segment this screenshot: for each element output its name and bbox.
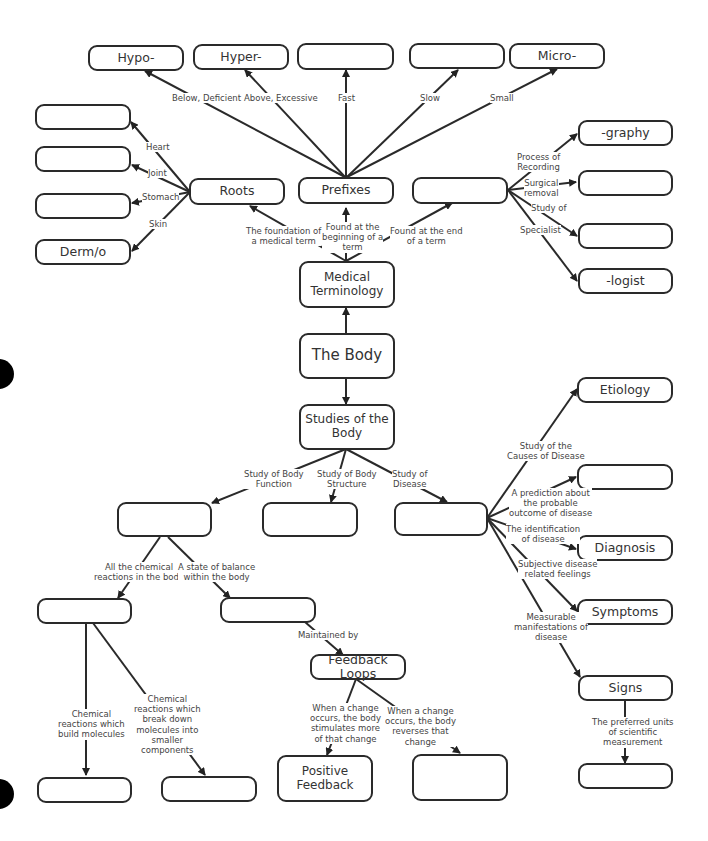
node-homeostasis-blank[interactable] [220, 597, 316, 623]
edge-label-below: Below, Deficient [172, 93, 241, 103]
node-suffixes-blank[interactable] [412, 177, 508, 204]
node-structure-blank[interactable] [262, 502, 358, 537]
node-logist: -logist [578, 268, 673, 294]
edge-label-above: Above, Excessive [244, 93, 318, 103]
edge-label-subjective: Subjective disease related feelings [518, 559, 597, 579]
edge-label-build: Chemical reactions which build molecules [58, 709, 125, 740]
edge-label-study-disease: Study of Disease [392, 469, 427, 489]
edge-label-body-structure: Study of Body Structure [317, 469, 377, 489]
node-function-blank[interactable] [117, 502, 212, 537]
node-signs: Signs [578, 675, 673, 701]
node-etiology: Etiology [577, 377, 673, 403]
edge-label-surgical: Surgical removal [524, 178, 559, 198]
edge-label-prediction: A prediction about the probable outcome … [509, 488, 592, 519]
node-stomach-blank[interactable] [35, 193, 131, 219]
edge-label-foundation: The foundation of a medical term [246, 226, 321, 246]
node-hypo: Hypo- [88, 45, 184, 71]
edge-label-identification: The identification of disease [506, 524, 580, 544]
edge-label-break: Chemical reactions which break down mole… [134, 694, 201, 755]
edge-label-recording: Process of Recording [517, 152, 560, 172]
edge-label-small: Small [490, 93, 514, 103]
node-symptoms: Symptoms [577, 599, 673, 625]
node-studyof-blank[interactable] [578, 223, 673, 249]
node-surgical-blank[interactable] [578, 170, 673, 196]
concept-map: Hypo- Hyper- Micro- Derm/o Roots Prefixe… [0, 0, 708, 841]
node-hyper: Hyper- [193, 44, 289, 70]
node-heart-blank[interactable] [35, 104, 131, 130]
node-fast-blank[interactable] [297, 43, 394, 70]
edge-label-measurable: Measurable manifestations of disease [514, 612, 588, 643]
edge-label-balance: A state of balance within the body [178, 562, 255, 582]
node-units-blank[interactable] [578, 763, 673, 789]
node-micro: Micro- [509, 43, 605, 69]
edge-label-joint: Joint [148, 168, 167, 178]
node-feedback-loops: Feedback Loops [310, 654, 406, 680]
node-slow-blank[interactable] [409, 43, 505, 69]
node-medical-terminology: Medical Terminology [299, 261, 395, 308]
node-anabolism-blank[interactable] [37, 777, 132, 803]
node-joint-blank[interactable] [35, 146, 131, 172]
edge-label-chemical-all: All the chemical reactions in the body [94, 562, 184, 582]
node-positive-feedback: Positive Feedback [277, 755, 373, 802]
edge-label-beginning: Found at the beginning of a term [322, 222, 383, 253]
node-catabolism-blank[interactable] [161, 776, 257, 802]
node-dermo: Derm/o [35, 239, 131, 265]
edge-label-stimulates: When a change occurs, the body stimulate… [310, 703, 381, 744]
node-disease-blank[interactable] [394, 502, 488, 536]
edge-label-skin: Skin [149, 219, 167, 229]
node-prognosis-blank[interactable] [577, 464, 673, 490]
edge-label-study-of: Study of [531, 203, 566, 213]
edge-label-fast: Fast [338, 93, 355, 103]
edge-label-units: The preferred units of scientific measur… [592, 717, 674, 748]
node-the-body: The Body [299, 333, 395, 379]
node-diagnosis: Diagnosis [577, 535, 673, 561]
node-roots: Roots [189, 178, 285, 205]
edge-label-stomach: Stomach [142, 192, 179, 202]
edge-label-specialist: Specialist [520, 225, 561, 235]
node-graphy: -graphy [578, 120, 673, 146]
edge-label-causes: Study of the Causes of Disease [507, 441, 585, 461]
node-metabolism-blank[interactable] [37, 598, 132, 624]
node-prefixes: Prefixes [298, 177, 394, 204]
edge-label-maintained: Maintained by [298, 630, 358, 640]
edge-label-body-function: Study of Body Function [244, 469, 304, 489]
edge-label-slow: Slow [420, 93, 440, 103]
edge-label-end: Found at the end of a term [390, 226, 463, 246]
node-studies-of-body: Studies of the Body [299, 404, 395, 450]
node-negative-blank[interactable] [412, 754, 508, 801]
edge-label-reverses: When a change occurs, the body reverses … [385, 706, 456, 747]
edge-label-heart: Heart [146, 142, 170, 152]
